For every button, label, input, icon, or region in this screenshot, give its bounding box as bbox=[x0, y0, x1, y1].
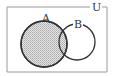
venn-diagram: U A B bbox=[0, 0, 113, 76]
set-b-label: B bbox=[74, 18, 82, 31]
universe-label: U bbox=[92, 1, 101, 14]
set-a-label: A bbox=[41, 12, 51, 25]
